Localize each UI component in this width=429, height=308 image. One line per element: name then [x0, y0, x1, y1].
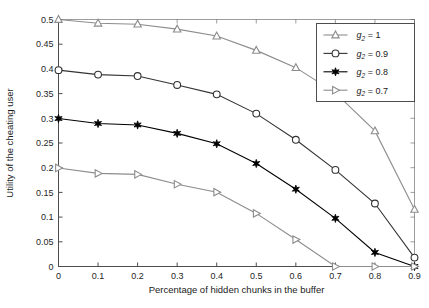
circle-marker [292, 136, 299, 143]
legend-item-label: g2 = 0.8 [357, 67, 388, 79]
series-line [59, 168, 415, 267]
series-3 [55, 114, 418, 270]
data-point-marker [134, 73, 141, 80]
data-point-marker [332, 214, 339, 222]
data-point-marker [213, 140, 220, 148]
y-tick-label: 0.4 [41, 64, 54, 74]
data-point-marker [55, 67, 62, 74]
data-point-marker [56, 164, 63, 171]
star-marker [371, 248, 378, 256]
data-point-marker [372, 263, 379, 270]
triangle-right-marker [214, 188, 221, 195]
y-tick-label: 0.1 [41, 212, 54, 222]
data-point-marker [292, 185, 299, 193]
y-tick-label: 0.05 [36, 237, 54, 247]
data-point-marker [214, 188, 221, 195]
data-point-marker [332, 167, 339, 174]
triangle-right-marker [372, 263, 379, 270]
data-point-marker [174, 181, 181, 188]
x-tick-label: 0.3 [171, 271, 184, 281]
triangle-right-marker [174, 181, 181, 188]
circle-marker [213, 91, 220, 98]
x-tick-label: 0.1 [92, 271, 105, 281]
data-point-marker [292, 136, 299, 143]
circle-marker [332, 167, 339, 174]
circle-marker [55, 67, 62, 74]
legend-item-label: g2 = 0.9 [357, 49, 388, 61]
legend-item-label: g2 = 1 [357, 30, 381, 42]
circle-marker [332, 50, 339, 57]
triangle-right-marker [95, 170, 102, 177]
circle-marker [372, 200, 379, 207]
y-tick-label: 0.5 [41, 15, 54, 25]
data-point-marker [372, 200, 379, 207]
x-tick-label: 0.8 [369, 271, 382, 281]
data-point-marker [332, 50, 339, 57]
triangle-up-marker [55, 16, 62, 23]
data-point-marker [174, 82, 181, 89]
x-axis-title: Percentage of hidden chunks in the buffe… [149, 284, 325, 295]
y-tick-label: 0 [48, 262, 53, 272]
star-marker [332, 214, 339, 222]
circle-marker [134, 73, 141, 80]
y-tick-label: 0.2 [41, 163, 54, 173]
y-tick-label: 0.3 [41, 114, 54, 124]
circle-marker [411, 254, 418, 261]
data-point-marker [95, 71, 102, 78]
legend-item-label: g2 = 0.7 [357, 86, 388, 98]
triangle-right-marker [135, 171, 142, 178]
triangle-right-marker [333, 263, 340, 270]
data-point-marker [213, 91, 220, 98]
y-axis-title: Utility of the cheating user [4, 88, 15, 197]
triangle-right-marker [56, 164, 63, 171]
x-tick-label: 0.2 [131, 271, 144, 281]
circle-marker [253, 110, 260, 117]
series-line [59, 119, 415, 267]
y-tick-label: 0.45 [36, 39, 54, 49]
triangle-up-marker [411, 205, 418, 212]
figure-container: 00.050.10.150.20.250.30.350.40.450.500.1… [0, 0, 429, 308]
star-marker [253, 159, 260, 167]
data-point-marker [253, 110, 260, 117]
data-point-marker [95, 170, 102, 177]
circle-marker [174, 82, 181, 89]
data-point-marker [253, 159, 260, 167]
data-point-marker [411, 254, 418, 261]
x-tick-label: 0.6 [290, 271, 303, 281]
y-tick-label: 0.25 [36, 138, 54, 148]
x-tick-label: 0.4 [210, 271, 223, 281]
x-tick-label: 0 [56, 271, 61, 281]
y-tick-label: 0.35 [36, 89, 54, 99]
x-tick-label: 0.9 [408, 271, 421, 281]
circle-marker [95, 71, 102, 78]
star-marker [213, 140, 220, 148]
data-point-marker [411, 205, 418, 212]
legend: g2 = 1g2 = 0.9g2 = 0.8g2 = 0.7 [317, 24, 415, 102]
star-marker [292, 185, 299, 193]
data-point-marker [333, 263, 340, 270]
x-tick-label: 0.7 [329, 271, 342, 281]
data-point-marker [371, 248, 378, 256]
y-tick-label: 0.15 [36, 188, 54, 198]
data-point-marker [135, 171, 142, 178]
series-4 [56, 164, 419, 270]
x-tick-label: 0.5 [250, 271, 263, 281]
data-point-marker [55, 16, 62, 23]
chart-canvas: 00.050.10.150.20.250.30.350.40.450.500.1… [0, 0, 429, 308]
